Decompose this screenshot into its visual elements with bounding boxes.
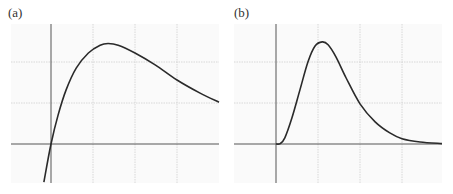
- figure-canvas: [0, 0, 453, 194]
- panel-a-plot: [11, 24, 219, 183]
- plot-area: [234, 24, 442, 183]
- panel-b-plot: [234, 24, 442, 183]
- plot-area: [11, 24, 219, 183]
